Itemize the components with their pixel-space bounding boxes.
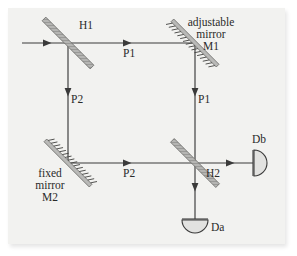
arrow-p2-bottom (123, 160, 132, 167)
label-m1-line2: mirror (162, 29, 260, 41)
label-m2-line1: fixed (22, 168, 78, 180)
detector-db[interactable] (253, 150, 267, 176)
arrow-out-db (226, 160, 235, 167)
label-p1-top: P1 (123, 48, 135, 60)
arrow-p1-top (123, 40, 132, 47)
detector-da[interactable] (182, 219, 208, 233)
label-db: Db (252, 134, 266, 146)
arrow-out-da (192, 183, 199, 192)
label-h1: H1 (79, 20, 93, 32)
label-p1-right: P1 (198, 94, 210, 106)
label-m1-line1: adjustable (162, 17, 260, 29)
arrow-input (43, 40, 52, 47)
label-da: Da (211, 222, 224, 234)
label-m1-line3: M1 (162, 41, 260, 53)
label-m2-line3: M2 (22, 192, 78, 204)
label-m2-line2: mirror (22, 180, 78, 192)
figure-canvas: H1 H2 adjustable mirror M1 fixed mirror … (0, 0, 297, 256)
label-p2-bottom: P2 (123, 168, 135, 180)
label-h2: H2 (206, 168, 220, 180)
label-p2-left: P2 (71, 94, 83, 106)
